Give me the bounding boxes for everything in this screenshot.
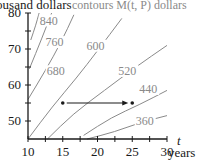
x-tick-label: 10	[22, 144, 35, 159]
arrow-head	[122, 100, 128, 105]
x-tick-label: 15	[56, 144, 69, 159]
contour-label-760: 760	[45, 35, 63, 49]
data-point	[130, 101, 134, 105]
y-axis-title: thousand dollars	[0, 0, 72, 12]
x-tick-label: 25	[126, 144, 139, 159]
y-tick-label: 70	[8, 41, 21, 56]
contour-label-440: 440	[139, 82, 157, 96]
contour-label-520: 520	[118, 64, 136, 78]
data-point	[61, 101, 65, 105]
contour-label-680: 680	[47, 64, 65, 78]
contour-840	[31, 13, 39, 40]
contour-label-600: 600	[86, 39, 104, 53]
contour-label-360: 360	[136, 114, 154, 128]
contour-labels: 840760680600520440360	[39, 14, 159, 129]
annotations	[61, 100, 134, 105]
contour-label-840: 840	[40, 14, 58, 28]
contour-chart: 840760680600520440360 1015202530 5060708…	[0, 0, 203, 162]
x-tick-label: 20	[91, 144, 104, 159]
x-axis-title: years	[168, 145, 195, 160]
y-tick-label: 60	[8, 77, 21, 92]
y-tick-label: 50	[8, 113, 21, 128]
chart-title: contours M(t, P) dollars	[72, 0, 187, 12]
